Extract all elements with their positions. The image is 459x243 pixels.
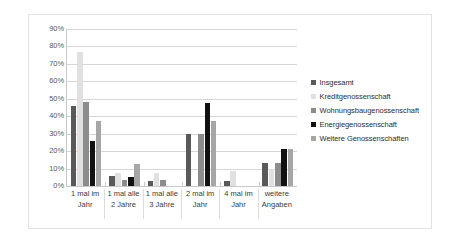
- bar-group: [105, 29, 143, 186]
- bar-group: [144, 29, 182, 186]
- legend-item-label: Energiegenossenschaft: [320, 120, 397, 129]
- legend-item-label: Wohnungsbaugenossenschaft: [320, 106, 420, 115]
- bar[interactable]: [224, 181, 230, 186]
- x-axis-separator: [219, 189, 220, 219]
- x-axis-category-label: 1 mal alle 2 Jahre: [104, 189, 142, 223]
- chart-figure: 90%80%70%60%50%40%30%20%10%0% 1 mal im J…: [28, 14, 432, 229]
- bar[interactable]: [90, 141, 96, 186]
- y-axis-tick-label: 90%: [31, 25, 64, 33]
- plot-area: [66, 29, 297, 187]
- bar[interactable]: [115, 173, 121, 186]
- bar[interactable]: [230, 171, 236, 186]
- y-axis-tick-label: 30%: [31, 130, 64, 138]
- legend-item[interactable]: Energiegenossenschaft: [311, 118, 431, 132]
- bar[interactable]: [77, 52, 83, 186]
- legend-item[interactable]: Insgesamt: [311, 75, 431, 89]
- bar-group: [182, 29, 220, 186]
- bar[interactable]: [205, 103, 211, 186]
- x-axis-separator: [143, 189, 144, 219]
- bar[interactable]: [281, 149, 287, 186]
- y-axis-tick-label: 10%: [31, 165, 64, 173]
- bar[interactable]: [148, 181, 154, 186]
- x-axis: 1 mal im Jahr1 mal alle 2 Jahre1 mal all…: [66, 189, 296, 223]
- bar[interactable]: [154, 173, 160, 186]
- bar[interactable]: [269, 169, 275, 186]
- legend-swatch-icon: [311, 94, 316, 99]
- x-axis-separator: [181, 189, 182, 219]
- bar-group: [220, 29, 258, 186]
- bar[interactable]: [288, 149, 294, 186]
- y-axis-tick-label: 20%: [31, 147, 64, 155]
- y-axis: 90%80%70%60%50%40%30%20%10%0%: [31, 29, 64, 186]
- y-axis-tick-label: 0%: [31, 182, 64, 190]
- legend-item-label: Insgesamt: [320, 78, 354, 87]
- bar[interactable]: [83, 102, 89, 186]
- bar[interactable]: [96, 121, 102, 186]
- y-axis-tick-label: 80%: [31, 43, 64, 51]
- legend-swatch-icon: [311, 122, 316, 127]
- x-axis-separator: [258, 189, 259, 219]
- y-axis-tick-label: 50%: [31, 95, 64, 103]
- legend-swatch-icon: [311, 108, 316, 113]
- bar[interactable]: [71, 106, 77, 186]
- x-axis-category-label: 2 mal im Jahr: [181, 189, 219, 223]
- x-axis-separator: [104, 189, 105, 219]
- bar[interactable]: [122, 180, 128, 186]
- x-axis-category-label: 4 mal im Jahr: [219, 189, 257, 223]
- bar[interactable]: [186, 134, 192, 186]
- legend-swatch-icon: [311, 136, 316, 141]
- legend-item[interactable]: Wohnungsbaugenossenschaft: [311, 103, 431, 117]
- bar[interactable]: [262, 163, 268, 186]
- x-axis-category-label: 1 mal im Jahr: [66, 189, 104, 223]
- bar[interactable]: [211, 121, 217, 186]
- legend-swatch-icon: [311, 80, 316, 85]
- chart-legend: InsgesamtKreditgenossenschaftWohnungsbau…: [311, 75, 431, 146]
- bar[interactable]: [160, 180, 166, 186]
- bar[interactable]: [198, 134, 204, 186]
- bar[interactable]: [109, 176, 115, 186]
- y-axis-tick-label: 60%: [31, 78, 64, 86]
- legend-item-label: Weitere Genossenschaften: [320, 134, 409, 143]
- y-axis-tick-label: 70%: [31, 60, 64, 68]
- y-axis-tick-label: 40%: [31, 112, 64, 120]
- bar-group: [259, 29, 297, 186]
- bar[interactable]: [134, 164, 140, 186]
- legend-item[interactable]: Weitere Genossenschaften: [311, 132, 431, 146]
- bar-groups: [67, 29, 297, 186]
- x-axis-category-label: 1 mal alle 3 Jahre: [143, 189, 181, 223]
- bar[interactable]: [128, 177, 134, 186]
- legend-item[interactable]: Kreditgenossenschaft: [311, 89, 431, 103]
- bar-group: [67, 29, 105, 186]
- bar[interactable]: [275, 163, 281, 186]
- legend-item-label: Kreditgenossenschaft: [320, 92, 391, 101]
- x-axis-category-label: weitere Angaben: [258, 189, 296, 223]
